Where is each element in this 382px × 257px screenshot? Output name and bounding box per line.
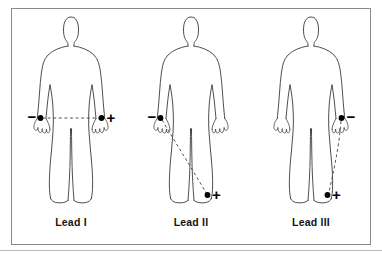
leg-right-outer [209, 85, 213, 199]
positive-sign: + [212, 186, 221, 203]
head-outline [64, 17, 79, 46]
head-outline [304, 17, 319, 46]
head-outline-left [304, 30, 309, 46]
foot-right [314, 199, 331, 203]
lead-1-body-diagram: − + [11, 8, 131, 218]
negative-sign: − [148, 108, 157, 125]
negative-sign: − [347, 108, 356, 125]
arm-right-inner [92, 85, 96, 119]
leg-right-outer [89, 85, 93, 199]
arm-left-inner [46, 85, 50, 119]
arm-right-inner [332, 85, 336, 119]
foot-left [291, 199, 308, 203]
positive-sign: + [332, 186, 341, 203]
leg-right-inner [72, 129, 75, 201]
lead-3-body-diagram: − + [251, 8, 371, 218]
foot-right [74, 199, 91, 203]
leg-left-outer [49, 85, 53, 199]
leg-right-outer [329, 85, 333, 199]
negative-sign: − [28, 108, 37, 125]
electrode-positive-left-leg[interactable] [325, 192, 331, 198]
head-outline [184, 17, 199, 46]
crotch-join [191, 129, 192, 133]
electrode-positive-left-leg[interactable] [205, 192, 211, 198]
hand-right [212, 119, 228, 134]
arm-right-inner [212, 85, 216, 119]
foot-left [171, 199, 188, 203]
arm-left-inner [166, 85, 170, 119]
bottom-divider-rule [0, 250, 382, 251]
crotch-join [311, 129, 312, 133]
hand-left [274, 119, 290, 134]
arm-left-inner [286, 85, 290, 119]
electrode-negative-right-arm[interactable] [158, 115, 164, 121]
positive-sign: + [107, 109, 116, 126]
panel-lead-1: − + Lead I [11, 8, 131, 245]
electrode-negative-left-arm[interactable] [339, 115, 345, 121]
foot-right [194, 199, 211, 203]
lead-1-label: Lead I [11, 216, 131, 228]
leg-left-outer [289, 85, 293, 199]
electrode-negative-right-arm[interactable] [38, 115, 44, 121]
panel-lead-2: − + Lead II [131, 8, 251, 245]
leg-right-inner [312, 129, 315, 201]
lead-3-label: Lead III [251, 216, 371, 228]
ecg-lead-figure: − + Lead I [0, 0, 382, 257]
lead-2-label: Lead II [131, 216, 251, 228]
leg-left-inner [308, 129, 311, 201]
lead-2-body-diagram: − + [131, 8, 251, 218]
head-outline-left [184, 30, 189, 46]
electrode-positive-left-arm[interactable] [99, 115, 105, 121]
leg-left-inner [68, 129, 71, 201]
foot-left [51, 199, 68, 203]
lead-2-vector-dashed-line [162, 120, 207, 194]
head-outline-left [64, 30, 69, 46]
leg-right-inner [192, 129, 195, 201]
crotch-join [71, 129, 72, 133]
leg-left-outer [169, 85, 173, 199]
panel-lead-3: − + Lead III [251, 8, 371, 245]
